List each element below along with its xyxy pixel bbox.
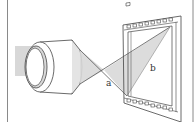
lens-assembly	[15, 40, 82, 94]
light-cone-right	[104, 27, 170, 96]
label-b: b	[150, 63, 156, 73]
lens-film-diagram: a b	[0, 0, 195, 122]
label-a: a	[106, 78, 112, 88]
sprocket-row-top	[126, 2, 130, 6]
light-cone-left	[80, 50, 104, 84]
lens-glass	[26, 48, 44, 86]
